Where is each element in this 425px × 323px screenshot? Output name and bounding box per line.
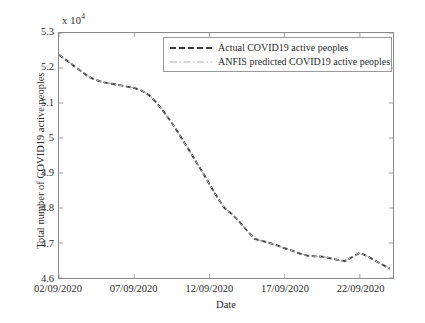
y-axis-tick-label: 4.8 [6,203,58,213]
series-line-anfis-predicted [59,55,390,269]
legend-swatch-actual-dashed-line-icon [169,42,213,54]
x-axis-tick-label: 17/09/2020 [261,283,309,295]
x-axis-tick-label: 07/09/2020 [110,283,158,295]
legend-swatch-predicted-dashdot-line-icon [169,56,213,68]
legend-label-actual: Actual COVID19 active peoples [218,42,348,54]
y-axis-tick-label: 5.3 [6,27,58,37]
x-axis-title: Date [58,299,394,310]
y-axis-title: Total number of COVID19 active peoples [35,36,46,286]
legend-item-actual: Actual COVID19 active peoples [169,41,386,55]
legend-label-predicted: ANFIS predicted COVID19 active peoples [218,56,390,68]
y-axis-tick-label: 4.9 [6,168,58,178]
y-axis-exponent-label: x 104 [62,12,85,26]
legend-item-predicted: ANFIS predicted COVID19 active peoples [169,55,386,69]
y-axis-tick-labels: 4.64.74.84.955.15.25.3 [0,0,58,323]
series-line-actual [59,55,390,269]
y-axis-tick-label: 5 [6,133,58,143]
covid19-anfis-forecast-chart: x 104 4.64.74.84.955.15.25.3 Total numbe… [0,0,425,323]
x-axis-tick-label: 22/09/2020 [337,283,385,295]
x-axis-tick-labels: 02/09/202007/09/202012/09/202017/09/2020… [0,283,425,299]
x-axis-tick-label: 12/09/2020 [185,283,233,295]
y-axis-tick-label: 5.1 [6,98,58,108]
y-axis-tick-label: 5.2 [6,62,58,72]
chart-legend: Actual COVID19 active peoples ANFIS pred… [163,37,392,72]
y-axis-exponent-power: 4 [81,12,85,21]
y-axis-tick-label: 4.7 [6,239,58,249]
y-axis-exponent-base: x 10 [62,15,81,26]
x-axis-tick-label: 02/09/2020 [34,283,82,295]
